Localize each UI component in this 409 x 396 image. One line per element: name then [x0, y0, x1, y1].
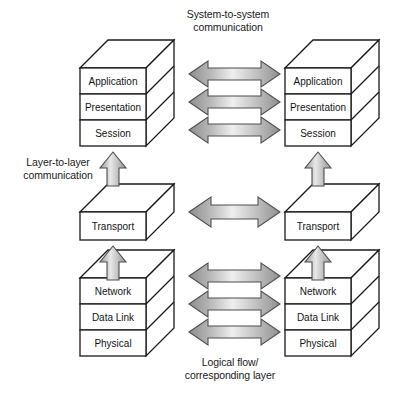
layer-label-transport: Transport	[92, 221, 135, 232]
double-arrow-transport	[189, 197, 280, 227]
layer-label-network: Network	[95, 286, 133, 297]
osi-diagram: Application Presentation Session Applica…	[0, 0, 409, 396]
left-transport-box: Transport	[80, 184, 174, 240]
layer-label-presentation: Presentation	[290, 102, 346, 113]
layer-label-network: Network	[300, 286, 338, 297]
caption-logical-flow: Logical flow/ corresponding layer	[150, 356, 310, 381]
caption-line-2: communication	[2, 169, 114, 182]
layer-label-physical: Physical	[94, 338, 131, 349]
layer-label-presentation: Presentation	[85, 102, 141, 113]
right-upper-stack: Application Presentation Session	[285, 40, 379, 146]
caption-system-to-system: System-to-system communication	[148, 8, 308, 33]
right-transport-box: Transport	[285, 184, 379, 240]
layer-label-data-link: Data Link	[92, 312, 135, 323]
horizontal-arrow-group-bottom	[189, 263, 280, 345]
up-arrow-right-session-transport	[305, 152, 331, 186]
right-lower-stack: Network Data Link Physical	[285, 250, 379, 356]
left-lower-stack: Network Data Link Physical	[80, 250, 174, 356]
double-arrow-session	[189, 117, 280, 143]
layer-label-application: Application	[294, 76, 343, 87]
caption-line-2: communication	[148, 21, 308, 34]
caption-layer-to-layer: Layer-to-layer communication	[2, 156, 114, 181]
horizontal-arrow-group-middle	[189, 197, 280, 227]
layer-label-data-link: Data Link	[297, 312, 340, 323]
double-arrow-physical	[189, 319, 280, 345]
caption-line-1: Logical flow/	[150, 356, 310, 369]
caption-line-1: Layer-to-layer	[2, 156, 114, 169]
double-arrow-application	[189, 61, 280, 87]
double-arrow-presentation	[189, 89, 280, 115]
caption-line-2: corresponding layer	[150, 369, 310, 382]
double-arrow-data-link	[189, 291, 280, 317]
layer-label-session: Session	[300, 128, 336, 139]
left-upper-stack: Application Presentation Session	[80, 40, 174, 146]
layer-label-transport: Transport	[297, 221, 340, 232]
layer-label-application: Application	[89, 76, 138, 87]
layer-label-physical: Physical	[299, 338, 336, 349]
diagram-canvas: Application Presentation Session Applica…	[0, 0, 409, 396]
horizontal-arrow-group-top	[189, 61, 280, 143]
double-arrow-network	[189, 263, 280, 289]
caption-line-1: System-to-system	[148, 8, 308, 21]
layer-label-session: Session	[95, 128, 131, 139]
